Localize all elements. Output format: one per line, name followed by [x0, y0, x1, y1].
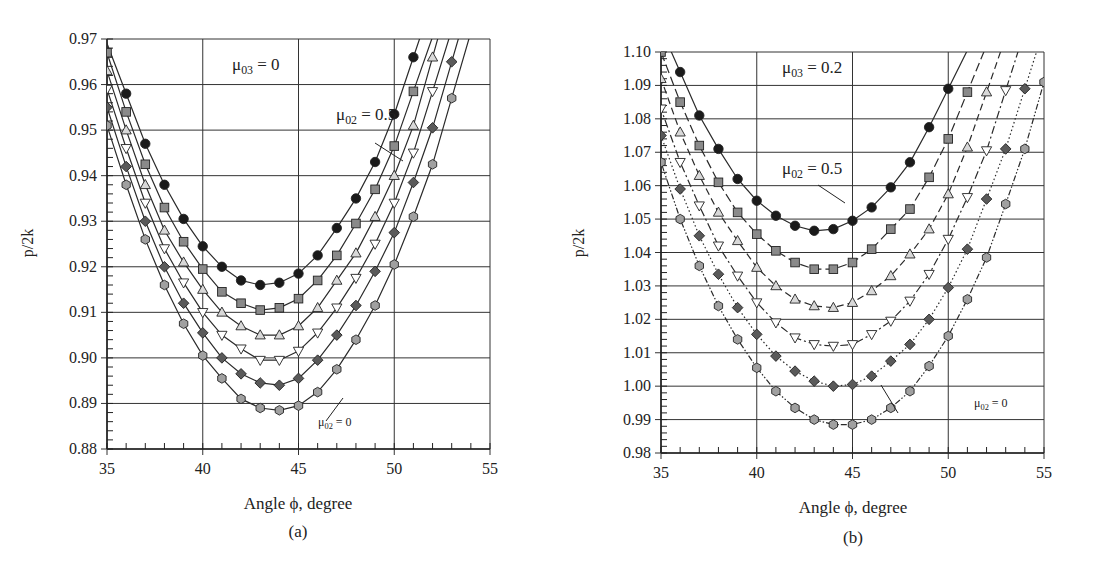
circle-marker-icon — [867, 203, 876, 212]
diamond-marker-icon — [389, 227, 400, 238]
data-series — [103, 0, 436, 290]
diamond-marker-icon — [809, 376, 820, 387]
square-marker-icon — [733, 208, 742, 217]
triangle-down-marker-icon — [159, 245, 169, 254]
hexagon-marker-icon — [1002, 199, 1010, 209]
triangle-up-marker-icon — [427, 52, 437, 61]
y-tick-label: 1.09 — [623, 76, 651, 93]
y-axis-label-b: p/2k — [570, 229, 588, 257]
triangle-down-marker-icon — [236, 345, 246, 354]
diamond-marker-icon — [197, 328, 208, 339]
hexagon-marker-icon — [352, 335, 360, 345]
hexagon-marker-icon — [390, 260, 398, 270]
triangle-down-marker-icon — [255, 356, 265, 365]
y-tick-label: 1.03 — [623, 277, 651, 294]
triangle-down-marker-icon — [370, 240, 380, 249]
circle-marker-icon — [313, 251, 322, 260]
circle-marker-icon — [217, 262, 226, 271]
triangle-up-marker-icon — [313, 302, 323, 311]
circle-marker-icon — [294, 269, 303, 278]
diamond-marker-icon — [713, 269, 724, 280]
triangle-up-marker-icon — [924, 224, 934, 233]
triangle-up-marker-icon — [981, 87, 991, 96]
hexagon-marker-icon — [982, 253, 990, 263]
hexagon-marker-icon — [657, 158, 665, 168]
circle-marker-icon — [733, 174, 742, 183]
triangle-down-marker-icon — [427, 88, 437, 97]
triangle-down-marker-icon — [771, 319, 781, 328]
square-marker-icon — [103, 48, 112, 57]
circle-marker-icon — [810, 226, 819, 235]
hexagon-marker-icon — [676, 214, 684, 224]
circle-marker-icon — [275, 278, 284, 287]
square-marker-icon — [256, 306, 265, 315]
circle-marker-icon — [714, 144, 723, 153]
triangle-down-marker-icon — [293, 347, 303, 356]
y-tick-label: 1.00 — [623, 377, 651, 394]
triangle-up-marker-icon — [943, 189, 953, 198]
square-marker-icon — [313, 276, 322, 285]
triangle-up-marker-icon — [121, 125, 131, 134]
triangle-up-marker-icon — [867, 286, 877, 295]
triangle-down-marker-icon — [886, 317, 896, 326]
square-marker-icon — [925, 173, 934, 182]
diamond-marker-icon — [159, 261, 170, 272]
triangle-down-marker-icon — [867, 331, 877, 340]
chart-panel-a: 0.880.890.900.910.920.930.940.950.960.97… — [0, 0, 553, 581]
triangle-down-marker-icon — [713, 242, 723, 251]
triangle-up-marker-icon — [159, 225, 169, 234]
square-marker-icon — [695, 141, 704, 150]
y-tick-label: 0.98 — [623, 444, 651, 461]
triangle-up-marker-icon — [847, 297, 857, 306]
triangle-up-marker-icon — [675, 127, 685, 136]
hexagon-marker-icon — [791, 403, 799, 413]
diamond-marker-icon — [924, 314, 935, 325]
hexagon-marker-icon — [733, 335, 741, 345]
circle-marker-icon — [236, 276, 245, 285]
circle-marker-icon — [752, 196, 761, 205]
hexagon-marker-icon — [887, 403, 895, 413]
circle-marker-icon — [332, 223, 341, 232]
y-tick-label: 0.95 — [69, 121, 97, 138]
hexagon-marker-icon — [906, 386, 914, 396]
hexagon-marker-icon — [772, 386, 780, 396]
triangle-up-marker-icon — [351, 248, 361, 257]
circle-marker-icon — [886, 183, 895, 192]
triangle-up-marker-icon — [140, 179, 150, 188]
hexagon-marker-icon — [829, 420, 837, 430]
x-tick-label: 50 — [386, 460, 402, 477]
diamond-marker-icon — [847, 379, 858, 390]
hexagon-marker-icon — [294, 401, 302, 411]
square-marker-icon — [409, 87, 418, 96]
x-tick-label: 45 — [845, 464, 861, 481]
y-tick-label: 1.06 — [623, 177, 651, 194]
triangle-up-marker-icon — [733, 236, 743, 245]
square-marker-icon — [141, 160, 150, 169]
y-tick-label: 0.97 — [69, 30, 97, 47]
triangle-down-marker-icon — [675, 158, 685, 167]
x-axis-label-a: Angle ϕ, degree — [148, 494, 448, 514]
panel-caption-a: (a) — [268, 522, 328, 542]
triangle-up-marker-icon — [656, 73, 666, 82]
circle-marker-icon — [771, 211, 780, 220]
square-marker-icon — [294, 294, 303, 303]
hexagon-marker-icon — [695, 261, 703, 271]
hexagon-marker-icon — [810, 415, 818, 425]
diamond-marker-icon — [370, 266, 381, 277]
y-tick-label: 0.96 — [69, 76, 97, 93]
triangle-down-marker-icon — [140, 199, 150, 208]
hexagon-marker-icon — [753, 363, 761, 373]
hexagon-marker-icon — [944, 331, 952, 341]
bottom-curve-label-b: μ02 = 0 — [974, 396, 1008, 412]
chart-panel-b: 0.980.991.001.011.021.031.041.051.061.07… — [553, 0, 1106, 581]
triangle-down-marker-icon — [981, 147, 991, 156]
square-marker-icon — [810, 265, 819, 274]
plot-area-b: 0.980.991.001.011.021.031.041.051.061.07… — [553, 0, 1106, 581]
triangle-up-marker-icon — [962, 142, 972, 151]
triangle-down-marker-icon — [962, 194, 972, 203]
square-marker-icon — [867, 245, 876, 254]
triangle-up-marker-icon — [790, 294, 800, 303]
hexagon-marker-icon — [199, 351, 207, 361]
circle-marker-icon — [790, 221, 799, 230]
y-tick-label: 0.93 — [69, 212, 97, 229]
